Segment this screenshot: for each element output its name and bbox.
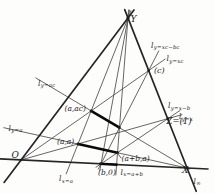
point-b-0 <box>100 163 103 166</box>
label-line-x-a: lx=a <box>59 174 73 184</box>
label-line-y-xc: ly=xc <box>167 54 184 65</box>
label-line-y-xc-bc: ly=xc−bc <box>151 41 180 52</box>
line-x-eq-b <box>100 10 130 170</box>
highlight-seg-y-ac <box>91 111 119 128</box>
label-line-x-a-plus-b: lx=a+b <box>121 168 144 178</box>
label-line-y-a: ly=a <box>9 124 23 135</box>
highlight-seg-y-a <box>78 144 118 153</box>
label-O: O <box>12 150 20 160</box>
figure-wrap: YOXZ=(1)(c)(a,ac)(a,a)(a+b,a)(b,0)ly=acl… <box>0 0 214 194</box>
line-y-eq-xc <box>21 59 165 160</box>
point-Y <box>126 16 129 19</box>
point-a-a <box>77 143 80 146</box>
point-a-plus-b-ac <box>118 126 121 129</box>
label-Y: Y <box>131 14 138 24</box>
line-O-Y-axis <box>4 10 134 182</box>
label-a-a: (a,a) <box>57 137 74 146</box>
label-X: X <box>181 165 189 175</box>
label-line-y-x-b: ly=x−b <box>168 101 191 112</box>
point-c <box>147 69 150 72</box>
label-c: (c) <box>154 66 165 75</box>
label-a-plus-b-a: (a+b,a) <box>122 154 150 163</box>
point-a-plus-b-a <box>116 151 119 154</box>
point-O <box>20 159 23 162</box>
label-b-0: (b,0) <box>98 168 116 177</box>
point-a-ac <box>90 110 93 113</box>
label-line-y-ac: ly=ac <box>38 79 55 90</box>
figure-canvas: YOXZ=(1)(c)(a,ac)(a,a)(a+b,a)(b,0)ly=acl… <box>0 0 214 194</box>
label-line-y-x: ly=x <box>179 112 193 123</box>
line-y-eq-x <box>21 115 182 160</box>
label-a-ac: (a,ac) <box>65 104 86 113</box>
label-line-infinity: l∞ <box>194 177 202 187</box>
